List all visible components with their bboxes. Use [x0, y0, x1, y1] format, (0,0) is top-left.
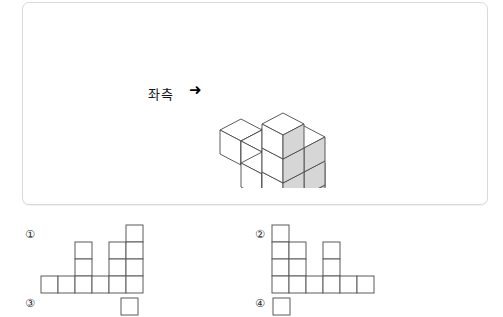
grid-cell [289, 276, 306, 293]
option-grid-4[interactable] [272, 297, 291, 316]
grid-cell [109, 259, 126, 276]
grid-cell [126, 276, 143, 293]
grid-svg [40, 224, 144, 294]
grid-cell [109, 242, 126, 259]
grid-cell [92, 276, 109, 293]
grid-svg [271, 224, 375, 294]
option-number-1: ① [25, 228, 35, 241]
isometric-cube-figure [195, 8, 395, 188]
option-grid-1[interactable] [40, 224, 144, 294]
grid-cell [126, 225, 143, 242]
grid-cell [323, 276, 340, 293]
grid-cell [323, 259, 340, 276]
direction-label: 좌측 [148, 84, 173, 103]
option-grid-2[interactable] [271, 224, 375, 294]
grid-cell [340, 276, 357, 293]
cube-stack-svg [195, 8, 395, 188]
screenshot-root: 좌측 ➜ ① ② ③ ④ [0, 0, 503, 317]
grid-cell [357, 276, 374, 293]
grid-cell [273, 298, 290, 315]
grid-cell [126, 242, 143, 259]
grid-cell [126, 259, 143, 276]
option-number-2: ② [255, 228, 265, 241]
grid-cell [121, 298, 138, 315]
grid-cell [41, 276, 58, 293]
grid-cell [58, 276, 75, 293]
grid-cell [272, 225, 289, 242]
grid-cell [272, 259, 289, 276]
option-grid-3[interactable] [120, 297, 139, 316]
option-number-4: ④ [255, 297, 265, 310]
grid-svg [120, 297, 139, 316]
grid-cell [75, 242, 92, 259]
grid-cell [289, 259, 306, 276]
grid-cell [272, 276, 289, 293]
grid-cell [109, 276, 126, 293]
option-number-3: ③ [25, 297, 35, 310]
grid-cell [75, 276, 92, 293]
grid-cell [306, 276, 323, 293]
grid-cell [75, 259, 92, 276]
grid-svg [272, 297, 291, 316]
grid-cell [272, 242, 289, 259]
grid-cell [289, 242, 306, 259]
grid-cell [323, 242, 340, 259]
